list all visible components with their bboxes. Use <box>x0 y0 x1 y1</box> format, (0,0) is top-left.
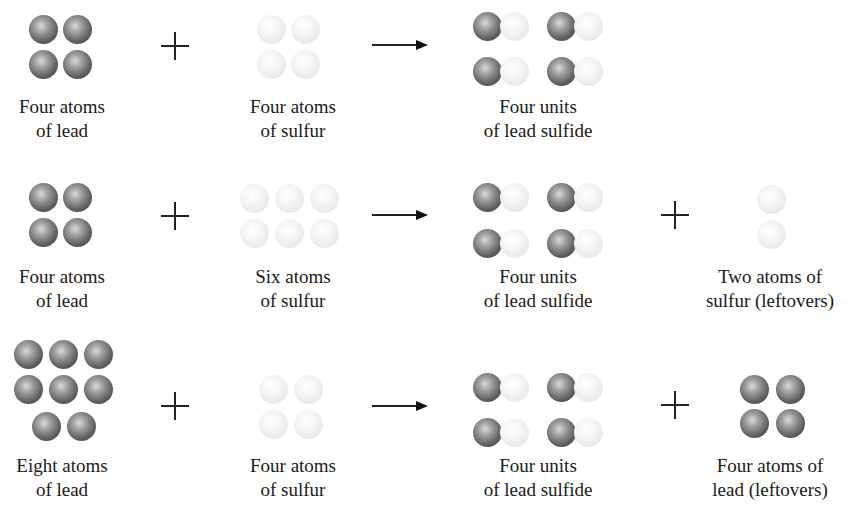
sulfur-atom <box>240 219 269 248</box>
plus-icon <box>661 201 689 229</box>
leftover-label: Two atoms of sulfur (leftovers) <box>670 265 858 313</box>
sulfur-atom <box>291 15 320 44</box>
reaction-arrow-icon <box>372 401 428 411</box>
plus-icon <box>161 32 189 60</box>
lead-atom <box>29 50 58 79</box>
lead-atom <box>49 340 78 369</box>
reactant-label: Six atoms of sulfur <box>193 265 393 313</box>
reactant-label: Four atoms of sulfur <box>193 95 393 143</box>
reaction-arrow-icon <box>372 40 428 50</box>
reactant-label: Four atoms of lead <box>0 95 162 143</box>
sulfur-atom <box>500 373 529 402</box>
lead-atom <box>63 15 92 44</box>
lead-atom <box>29 15 58 44</box>
sulfur-atom <box>310 219 339 248</box>
lead-atom <box>473 373 502 402</box>
lead-atom <box>29 218 58 247</box>
lead-atom <box>740 409 769 438</box>
lead-atom <box>473 229 502 258</box>
lead-atom <box>67 412 96 441</box>
sulfur-atom <box>259 410 288 439</box>
sulfur-atom <box>310 184 339 213</box>
sulfur-atom <box>500 229 529 258</box>
lead-atom <box>473 183 502 212</box>
lead-atom <box>547 418 576 447</box>
lead-atom <box>547 229 576 258</box>
leftover-label: Four atoms of lead (leftovers) <box>670 454 858 502</box>
lead-atom <box>776 409 805 438</box>
sulfur-atom <box>500 57 529 86</box>
sulfur-atom <box>574 57 603 86</box>
lead-atom <box>740 375 769 404</box>
reactant-label: Four atoms of lead <box>0 265 162 313</box>
sulfur-atom <box>259 375 288 404</box>
lead-atom <box>14 375 43 404</box>
reactant-label: Four atoms of sulfur <box>193 454 393 502</box>
lead-atom <box>63 183 92 212</box>
sulfur-atom <box>574 12 603 41</box>
product-label: Four units of lead sulfide <box>438 265 638 313</box>
sulfur-atom <box>574 373 603 402</box>
lead-atom <box>49 375 78 404</box>
lead-atom <box>84 375 113 404</box>
lead-atom <box>14 340 43 369</box>
lead-atom <box>547 57 576 86</box>
lead-atom <box>547 373 576 402</box>
reactant-label: Eight atoms of lead <box>0 454 162 502</box>
sulfur-atom <box>291 50 320 79</box>
plus-icon <box>661 391 689 419</box>
lead-atom <box>32 412 61 441</box>
sulfur-atom <box>574 229 603 258</box>
lead-atom <box>63 218 92 247</box>
sulfur-atom <box>500 183 529 212</box>
lead-atom <box>547 183 576 212</box>
lead-atom <box>547 12 576 41</box>
reaction-arrow-icon <box>372 210 428 220</box>
sulfur-atom <box>257 50 286 79</box>
lead-atom <box>776 375 805 404</box>
sulfur-atom <box>574 183 603 212</box>
plus-icon <box>161 392 189 420</box>
product-label: Four units of lead sulfide <box>438 454 638 502</box>
lead-atom <box>29 183 58 212</box>
sulfur-atom <box>275 184 304 213</box>
sulfur-atom <box>574 418 603 447</box>
sulfur-atom <box>757 185 786 214</box>
lead-atom <box>473 12 502 41</box>
sulfur-atom <box>294 375 323 404</box>
sulfur-atom <box>757 220 786 249</box>
sulfur-atom <box>500 418 529 447</box>
lead-atom <box>63 50 92 79</box>
sulfur-atom <box>240 184 269 213</box>
product-label: Four units of lead sulfide <box>438 95 638 143</box>
sulfur-atom <box>500 12 529 41</box>
sulfur-atom <box>257 15 286 44</box>
lead-atom <box>473 418 502 447</box>
sulfur-atom <box>275 219 304 248</box>
lead-atom <box>473 57 502 86</box>
lead-atom <box>84 340 113 369</box>
plus-icon <box>161 202 189 230</box>
sulfur-atom <box>294 410 323 439</box>
